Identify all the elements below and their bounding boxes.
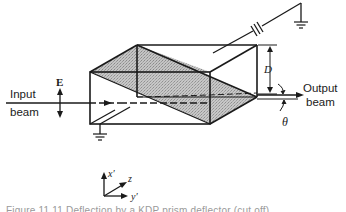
bottom-electrode [100, 107, 130, 134]
figure-caption: Figure 11.11 Deflection by a KDP prism d… [6, 205, 346, 212]
output-label-beam: beam [306, 96, 335, 108]
ground-icon [294, 22, 308, 28]
e-field-label: E [56, 76, 63, 88]
deflector-diagram: E Input beam Output beam D θ x′ z y′ [0, 0, 346, 212]
axis-x-label: x′ [107, 168, 115, 179]
axis-z-label: z [127, 173, 132, 184]
input-label-beam: beam [10, 106, 39, 118]
output-label: Output [303, 82, 338, 94]
axis-y-label: y′ [130, 191, 138, 202]
output-beam [257, 92, 304, 99]
theta-label: θ [282, 115, 288, 129]
dimension-d-label: D [263, 63, 272, 75]
ground-icon [93, 134, 107, 140]
theta-arrows [278, 84, 286, 111]
input-label: Input [10, 88, 36, 100]
